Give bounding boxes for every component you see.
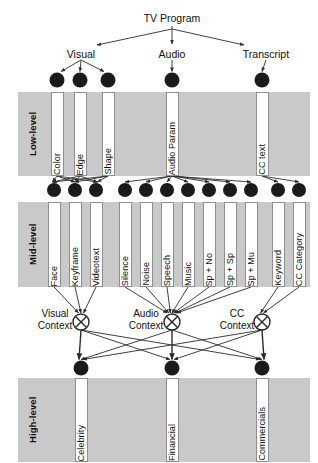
low-level-node-1[interactable] xyxy=(73,73,88,88)
modality-label-2: Transcript xyxy=(228,48,304,60)
feature-box-mid_level-4[interactable]: Noise xyxy=(140,202,153,287)
edge-root-visual xyxy=(97,29,172,45)
feature-box-label: Videotext xyxy=(91,246,101,286)
feature-box-mid_level-0[interactable]: Face xyxy=(48,202,61,287)
edge-ml2-visualctx xyxy=(84,287,97,313)
feature-box-label: Keyword xyxy=(273,248,283,286)
high-level-node-1[interactable] xyxy=(165,361,180,376)
mid-level-node-6[interactable] xyxy=(181,183,195,197)
mid-level-node-2[interactable] xyxy=(89,183,103,197)
high-level-node-0[interactable] xyxy=(74,361,89,376)
feature-box-label: Financial xyxy=(167,422,177,461)
context-label-0: VisualContext xyxy=(30,308,80,331)
feature-box-low_level-0[interactable]: Color xyxy=(51,92,64,176)
mid-level-node-7[interactable] xyxy=(202,183,216,197)
feature-box-label: Speech xyxy=(162,253,172,286)
band-label: Mid-level xyxy=(22,206,42,283)
feature-box-label: CC Category xyxy=(294,231,304,286)
edge-ml7-audioctx xyxy=(174,287,209,313)
modality-label-0: Visual xyxy=(43,48,119,60)
mid-level-node-8[interactable] xyxy=(223,183,237,197)
feature-box-mid_level-10[interactable]: Keyword xyxy=(272,202,285,287)
feature-box-high_level-0[interactable]: Celebrity xyxy=(75,378,88,462)
edge-ml6-audioctx xyxy=(172,287,188,313)
feature-box-mid_level-2[interactable]: Videotext xyxy=(90,202,103,287)
feature-box-label: Music xyxy=(183,260,193,286)
feature-box-label: Sp + Sp xyxy=(225,251,235,286)
edge-visual-edge xyxy=(80,60,81,72)
feature-box-label: Keyframe xyxy=(70,245,80,286)
root-label: TV Program xyxy=(127,12,217,24)
feature-box-label: Shape xyxy=(103,146,113,175)
mid-level-node-5[interactable] xyxy=(160,183,174,197)
feature-box-high_level-2[interactable]: Commercials xyxy=(256,378,269,462)
diagram-canvas: Low-levelMid-levelHigh-level ColorEdgeSh… xyxy=(0,0,318,463)
mid-level-node-10[interactable] xyxy=(271,183,285,197)
edge-ctx2-hl2 xyxy=(262,330,264,360)
context-label-line1: CC xyxy=(212,308,262,320)
feature-box-mid_level-11[interactable]: CC Category xyxy=(293,202,306,287)
edge-visual-shape xyxy=(81,60,104,72)
edge-root-transcript xyxy=(172,29,244,45)
feature-box-mid_level-9[interactable]: Sp + Mu xyxy=(245,202,258,287)
feature-box-label: Color xyxy=(52,151,62,175)
feature-box-mid_level-3[interactable]: Silence xyxy=(119,202,132,287)
mid-level-node-1[interactable] xyxy=(68,183,82,197)
feature-box-label: CC text xyxy=(257,142,267,175)
context-label-line1: Visual xyxy=(30,308,80,320)
edge-transcript-cctext xyxy=(262,60,266,72)
feature-box-mid_level-8[interactable]: Sp + Sp xyxy=(224,202,237,287)
edge-ctx0-hl0 xyxy=(79,330,81,360)
mid-level-node-4[interactable] xyxy=(139,183,153,197)
context-label-line2: Context xyxy=(30,320,80,332)
context-label-line1: Audio xyxy=(121,308,171,320)
mid-level-node-11[interactable] xyxy=(292,183,306,197)
feature-box-label: Face xyxy=(49,264,59,286)
feature-box-low_level-2[interactable]: Shape xyxy=(102,92,115,176)
context-label-line2: Context xyxy=(212,320,262,332)
feature-box-low_level-3[interactable]: Audio Param xyxy=(166,92,179,176)
feature-box-mid_level-7[interactable]: Sp + No xyxy=(203,202,216,287)
high-level-node-2[interactable] xyxy=(255,361,270,376)
feature-box-label: Sp + No xyxy=(204,251,214,286)
feature-box-label: Silence xyxy=(120,254,130,286)
feature-box-mid_level-1[interactable]: Keyframe xyxy=(69,202,82,287)
feature-box-label: Sp + Mu xyxy=(246,250,256,286)
feature-box-mid_level-6[interactable]: Music xyxy=(182,202,195,287)
band-label: Low-level xyxy=(22,96,42,172)
edge-audioparam-ml9 xyxy=(172,176,251,182)
feature-box-label: Audio Param xyxy=(167,120,177,175)
context-label-line2: Context xyxy=(121,320,171,332)
low-level-node-3[interactable] xyxy=(165,73,180,88)
modality-label-1: Audio xyxy=(134,48,210,60)
feature-box-label: Noise xyxy=(141,260,151,286)
low-level-node-0[interactable] xyxy=(50,73,65,88)
mid-level-node-3[interactable] xyxy=(118,183,132,197)
feature-box-label: Celebrity xyxy=(76,423,86,461)
feature-box-low_level-1[interactable]: Edge xyxy=(74,92,87,176)
feature-box-low_level-4[interactable]: CC text xyxy=(256,92,269,176)
low-level-node-2[interactable] xyxy=(101,73,116,88)
feature-box-mid_level-5[interactable]: Speech xyxy=(161,202,174,287)
edge-visual-color xyxy=(61,60,81,72)
mid-level-node-9[interactable] xyxy=(244,183,258,197)
feature-box-label: Edge xyxy=(75,152,85,175)
mid-level-node-0[interactable] xyxy=(47,183,61,197)
feature-box-high_level-1[interactable]: Financial xyxy=(166,378,179,462)
band-label: High-level xyxy=(22,382,42,458)
context-label-1: AudioContext xyxy=(121,308,171,331)
context-label-2: CCContext xyxy=(212,308,262,331)
edge-cctext-cccategory xyxy=(262,176,299,182)
feature-box-label: Commercials xyxy=(257,405,267,461)
low-level-node-4[interactable] xyxy=(255,73,270,88)
